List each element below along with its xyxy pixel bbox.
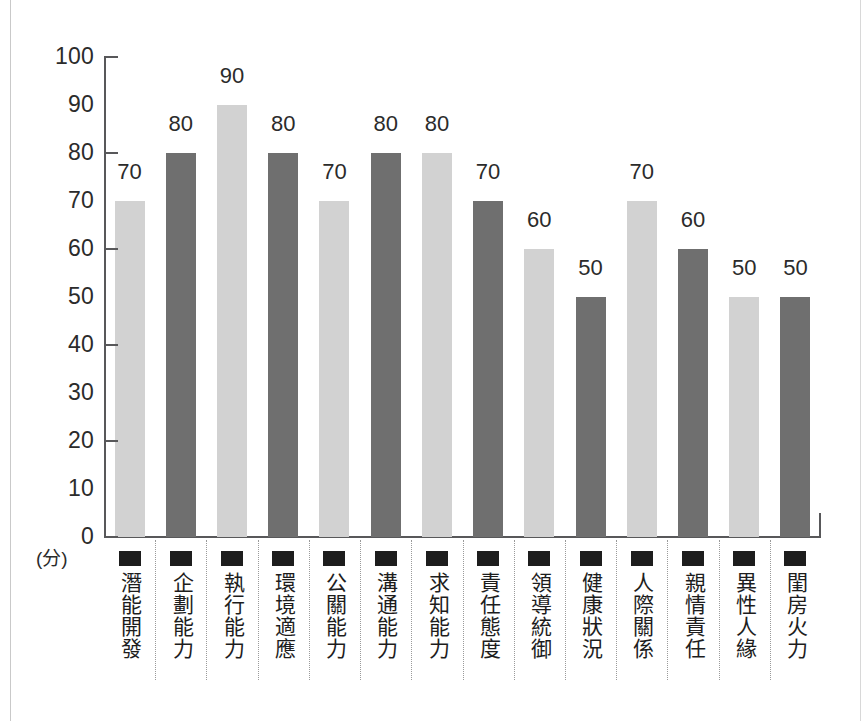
filled-square-icon (170, 551, 192, 566)
bar-item[interactable]: 50 (729, 257, 759, 537)
bar-item[interactable]: 70 (473, 161, 503, 537)
filled-square-icon (221, 551, 243, 566)
y-axis-tick-mark (104, 536, 118, 538)
y-axis-tick-label: 0 (36, 525, 94, 548)
category-axis-label: 企劃能力 (169, 572, 193, 660)
filled-square-icon (426, 551, 448, 566)
bar-rect[interactable] (371, 153, 401, 537)
category-axis-item[interactable]: 人際關係 (616, 538, 667, 660)
category-axis-label: 溝通能力 (374, 572, 398, 660)
category-separator (770, 540, 771, 680)
category-separator (667, 540, 668, 680)
filled-square-icon (119, 551, 141, 566)
bar-rect[interactable] (576, 297, 606, 537)
category-axis-item[interactable]: 溝通能力 (360, 538, 411, 660)
bar-value-label: 50 (732, 257, 756, 279)
bar-value-label: 60 (681, 209, 705, 231)
bar-item[interactable]: 70 (627, 161, 657, 537)
bar-rect[interactable] (729, 297, 759, 537)
category-separator (411, 540, 412, 680)
y-axis-tick-label: 20 (36, 429, 94, 452)
category-axis-item[interactable]: 求知能力 (411, 538, 462, 660)
bar-item[interactable]: 70 (115, 161, 145, 537)
bar-item[interactable]: 70 (319, 161, 349, 537)
category-separator (719, 540, 720, 680)
bar-rect[interactable] (217, 105, 247, 537)
category-axis-label: 責任態度 (476, 572, 500, 660)
category-axis-item[interactable]: 閨房火力 (770, 538, 821, 660)
filled-square-icon (733, 551, 755, 566)
bar-rect[interactable] (678, 249, 708, 537)
category-axis-item[interactable]: 公關能力 (309, 538, 360, 660)
bar-value-label: 60 (527, 209, 551, 231)
category-axis-label: 潛能開發 (118, 572, 142, 660)
bar-rect[interactable] (422, 153, 452, 537)
bar-value-label: 90 (220, 65, 244, 87)
bar-value-label: 50 (578, 257, 602, 279)
y-axis-unit-label: (分) (36, 549, 68, 568)
bar-value-label: 80 (271, 113, 295, 135)
y-axis-tick-label: 10 (36, 477, 94, 500)
bar-item[interactable]: 50 (780, 257, 810, 537)
category-axis-label: 閨房火力 (784, 572, 808, 660)
bar-rect[interactable] (473, 201, 503, 537)
category-separator (155, 540, 156, 680)
category-axis-label: 環境適應 (271, 572, 295, 660)
bar-value-label: 80 (169, 113, 193, 135)
filled-square-icon (580, 551, 602, 566)
y-axis-tick-mark (104, 152, 118, 154)
category-axis-item[interactable]: 責任態度 (463, 538, 514, 660)
category-separator (258, 540, 259, 680)
bar-rect[interactable] (268, 153, 298, 537)
bar-rect[interactable] (166, 153, 196, 537)
y-axis-tick-label: 60 (36, 237, 94, 260)
y-axis-tick-mark (104, 56, 118, 58)
category-axis-label: 健康狀況 (579, 572, 603, 660)
category-axis-item[interactable]: 領導統御 (514, 538, 565, 660)
bar-item[interactable]: 60 (678, 209, 708, 537)
filled-square-icon (323, 551, 345, 566)
category-axis-item[interactable]: 環境適應 (258, 538, 309, 660)
category-axis-label: 異性人緣 (732, 572, 756, 660)
category-separator (309, 540, 310, 680)
bar-rect[interactable] (524, 249, 554, 537)
bar-item[interactable]: 80 (371, 113, 401, 537)
bar-item[interactable]: 80 (422, 113, 452, 537)
bar-value-label: 80 (425, 113, 449, 135)
bar-item[interactable]: 80 (268, 113, 298, 537)
category-separator (360, 540, 361, 680)
bar-value-label: 70 (322, 161, 346, 183)
y-axis-tick-mark (104, 344, 118, 346)
filled-square-icon (528, 551, 550, 566)
bar-rect[interactable] (319, 201, 349, 537)
bar-value-label: 70 (476, 161, 500, 183)
bar-item[interactable]: 80 (166, 113, 196, 537)
bar-item[interactable]: 60 (524, 209, 554, 537)
category-axis-label: 人際關係 (630, 572, 654, 660)
category-axis-item[interactable]: 異性人緣 (719, 538, 770, 660)
y-axis-tick-labels: 1009080706050403020100 (34, 0, 94, 600)
y-axis-tick-label: 90 (36, 93, 94, 116)
filled-square-icon (272, 551, 294, 566)
bar-value-label: 50 (783, 257, 807, 279)
bar-item[interactable]: 50 (576, 257, 606, 537)
page-frame-left-rule (10, 0, 11, 721)
bar-item[interactable]: 90 (217, 65, 247, 537)
category-axis-item[interactable]: 健康狀況 (565, 538, 616, 660)
category-axis-label: 親情責任 (681, 572, 705, 660)
category-axis-item[interactable]: 親情責任 (667, 538, 718, 660)
bar-rect[interactable] (115, 201, 145, 537)
category-axis-label: 公關能力 (323, 572, 347, 660)
y-axis-tick-mark (104, 248, 118, 250)
category-axis-item[interactable]: 企劃能力 (155, 538, 206, 660)
y-axis-tick-mark (104, 440, 118, 442)
category-separator (206, 540, 207, 680)
bar-value-label: 70 (117, 161, 141, 183)
bar-rect[interactable] (780, 297, 810, 537)
category-separator (616, 540, 617, 680)
y-axis-tick-label: 40 (36, 333, 94, 356)
filled-square-icon (631, 551, 653, 566)
category-axis-item[interactable]: 執行能力 (206, 538, 257, 660)
bar-rect[interactable] (627, 201, 657, 537)
category-axis-item[interactable]: 潛能開發 (104, 538, 155, 660)
